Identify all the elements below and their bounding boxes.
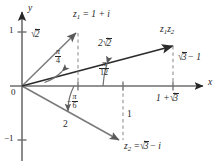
label-z1-point-subscript: 1 [77, 13, 80, 20]
fraction-denominator: 6 [72, 102, 78, 110]
sqrt-symbol-z2: √3 [140, 141, 149, 152]
fraction-pi-6: π6 [72, 93, 78, 110]
label-product-point: z1z2 [160, 25, 174, 36]
sqrt-symbol-x-intercept: √3 [170, 93, 179, 104]
label-z2-point: z2 =√3− i [124, 141, 161, 153]
origin-label: 0 [11, 88, 16, 97]
radical-sign: √ [178, 52, 183, 63]
label-angle-pi-over-12: π12 [99, 60, 109, 77]
y-axis-label: y [28, 4, 32, 14]
label-z1-point-value: = 1 + i [83, 9, 110, 19]
label-angle-neg-pi-over-6: −π6 [67, 93, 78, 110]
radical-sign: √ [31, 29, 36, 40]
label-x-intercept: 1 +√3 [156, 93, 179, 104]
diagram-canvas [0, 0, 222, 167]
x-axis [10, 82, 203, 91]
label-x-intercept-pre: 1 + [156, 93, 170, 103]
radical-sign: √ [170, 93, 175, 104]
label-z2-tail: − i [149, 141, 160, 151]
sqrt-symbol-product: √2 [103, 38, 112, 49]
sqrt-symbol-z1: √2 [31, 29, 40, 40]
label-z2-magnitude: 2 [63, 120, 68, 130]
y-tick-label-one: 1 [9, 26, 14, 35]
fraction-pi-4: π4 [55, 48, 61, 65]
vector-z1z2 [22, 46, 173, 86]
label-height-tail: − 1 [187, 52, 201, 62]
x-axis-label: x [208, 78, 212, 88]
fraction-pi-12: π12 [99, 60, 109, 77]
label-product-height: √3− 1 [178, 52, 201, 63]
fraction-denominator: 12 [99, 69, 109, 77]
label-z1-magnitude: √2 [31, 29, 40, 40]
label-z2-subscript: 2 [128, 145, 131, 152]
y-tick-label-neg-one: −1 [4, 134, 14, 143]
radical-sign: √ [140, 141, 145, 152]
label-angle-pi-over-4: π4 [55, 48, 61, 65]
complex-plane-figure: y x 0 1 −1 z1 = 1 + i √2 π4 2√2 π12 −π6 … [0, 0, 222, 167]
label-z2-drop-length: 1 [127, 110, 132, 120]
label-z1-point: z1 = 1 + i [73, 10, 110, 21]
radical-sign: √ [103, 38, 108, 49]
label-product-magnitude: 2√2 [98, 38, 112, 49]
label-product-sub2: 2 [171, 28, 174, 35]
fraction-denominator: 4 [55, 57, 61, 65]
